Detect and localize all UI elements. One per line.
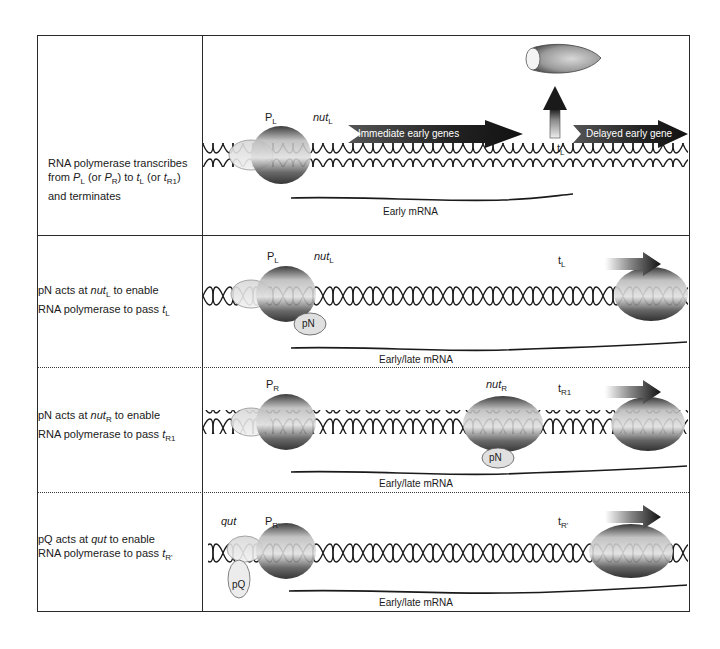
terminator-label: tL bbox=[558, 254, 566, 269]
diagram-table: RNA polymerase transcribes from PL (or P… bbox=[37, 35, 690, 612]
mrna-strand-icon bbox=[289, 585, 687, 593]
desc-line-1: pN acts at nutL to enable bbox=[38, 283, 198, 302]
row-diagram: PR nutR pN tR1 Early/late mRNA bbox=[203, 368, 689, 492]
desc-line-1: RNA polymerase transcribes bbox=[48, 156, 203, 170]
rna-polymerase-icon bbox=[611, 397, 685, 451]
desc-line-2: RNA polymerase to pass tL bbox=[38, 302, 198, 321]
row-description-cell: pQ acts at qut to enable RNA polymerase … bbox=[38, 493, 203, 611]
pn-label: pN bbox=[302, 318, 315, 329]
pq-label: pQ bbox=[232, 579, 245, 590]
qut-site-label: qut bbox=[221, 515, 236, 527]
row-diagram: PL nutL Immediate early genes Delayed ea… bbox=[203, 36, 689, 235]
rna-polymerase-icon bbox=[256, 523, 316, 579]
nut-site-label: nutL bbox=[313, 111, 333, 126]
release-arrow-icon bbox=[543, 86, 567, 138]
desc-line-1: pQ acts at qut to enable bbox=[38, 532, 198, 546]
mrna-label: Early/late mRNA bbox=[379, 597, 453, 608]
mrna-label: Early mRNA bbox=[383, 206, 438, 217]
mrna-label: Early/late mRNA bbox=[379, 478, 453, 489]
nut-site-label: nutL bbox=[314, 250, 334, 265]
row-description: pN acts at nutR to enable RNA polymerase… bbox=[38, 408, 198, 446]
row-pn-nutl: pN acts at nutL to enable RNA polymerase… bbox=[38, 236, 689, 368]
terminator-label: tL bbox=[557, 142, 565, 157]
pn-label: pN bbox=[489, 452, 502, 463]
nut-site-label: nutR bbox=[486, 378, 507, 393]
row-description-cell: RNA polymerase transcribes from PL (or P… bbox=[38, 36, 203, 235]
rna-polymerase-icon bbox=[463, 396, 543, 452]
row-description: RNA polymerase transcribes from PL (or P… bbox=[48, 156, 203, 203]
mrna-strand-icon bbox=[291, 466, 687, 474]
terminator-label: tR1 bbox=[558, 382, 571, 397]
terminator-label: tR' bbox=[558, 515, 568, 530]
rna-polymerase-icon bbox=[251, 126, 311, 184]
row-pq-qut: pQ acts at qut to enable RNA polymerase … bbox=[38, 493, 689, 611]
row-description-cell: pN acts at nutR to enable RNA polymerase… bbox=[38, 368, 203, 492]
row-diagram: PL nutL pN tL Early/late mRNA bbox=[203, 236, 689, 367]
desc-line-2: from PL (or PR) to tL (or tR1) bbox=[48, 170, 203, 189]
promoter-label: PR bbox=[266, 378, 279, 393]
desc-line-2: RNA polymerase to pass tR' bbox=[38, 546, 198, 565]
row-termination: RNA polymerase transcribes from PL (or P… bbox=[38, 36, 689, 236]
mrna-label: Early/late mRNA bbox=[379, 354, 453, 365]
desc-line-2: RNA polymerase to pass tR1 bbox=[38, 427, 198, 446]
row-description: pQ acts at qut to enable RNA polymerase … bbox=[38, 532, 198, 565]
rna-polymerase-icon bbox=[589, 524, 673, 578]
promoter-label: PL bbox=[267, 250, 279, 265]
row-pn-nutr: pN acts at nutR to enable RNA polymerase… bbox=[38, 368, 689, 493]
released-polymerase-icon bbox=[526, 44, 601, 73]
desc-line-1: pN acts at nutR to enable bbox=[38, 408, 198, 427]
row-description: pN acts at nutL to enable RNA polymerase… bbox=[38, 283, 198, 321]
promoter-label: PL bbox=[265, 111, 277, 126]
rna-polymerase-icon bbox=[614, 267, 688, 321]
promoter-label: PR' bbox=[265, 515, 280, 530]
mrna-strand-icon bbox=[291, 194, 573, 200]
desc-line-3: and terminates bbox=[48, 189, 203, 203]
rna-polymerase-icon bbox=[256, 394, 316, 450]
delayed-early-gene-label: Delayed early gene bbox=[586, 128, 672, 139]
antitermination-diagram bbox=[203, 493, 691, 611]
row-description-cell: pN acts at nutL to enable RNA polymerase… bbox=[38, 236, 203, 367]
row-diagram: qut PR' pQ tR' Early/late mRNA bbox=[203, 493, 689, 611]
mrna-strand-icon bbox=[291, 342, 687, 350]
immediate-early-genes-label: Immediate early genes bbox=[358, 128, 459, 139]
